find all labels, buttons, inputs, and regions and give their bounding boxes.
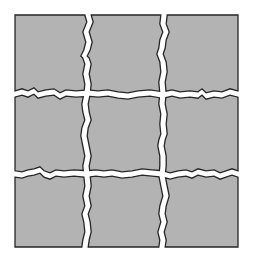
piece-r3-c1 [15, 173, 85, 247]
piece-r1-c3 [163, 15, 238, 93]
piece-r2-c3 [164, 95, 238, 173]
piece-group [15, 15, 238, 247]
piece-r2-c2 [87, 96, 161, 172]
piece-r1-c1 [15, 15, 87, 93]
piece-r3-c3 [164, 175, 238, 247]
piece-r2-c1 [15, 94, 85, 173]
piece-r1-c2 [87, 15, 163, 93]
fractured-square-diagram [0, 0, 254, 263]
piece-r3-c2 [88, 175, 163, 247]
